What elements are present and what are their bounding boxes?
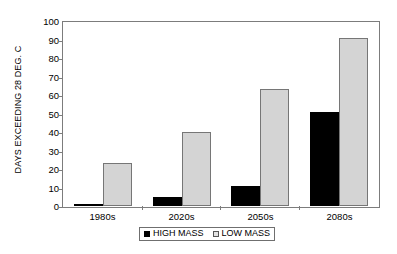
y-axis-tick-label: 20 — [29, 165, 59, 175]
bar-low-mass-2050s — [260, 89, 289, 206]
x-axis-tick-mark — [299, 206, 300, 210]
y-axis-tick-label: 0 — [29, 202, 59, 212]
y-axis-tick-label: 40 — [29, 128, 59, 138]
legend-label-low-mass: LOW MASS — [222, 229, 271, 238]
bar-high-mass-2020s — [153, 197, 182, 206]
y-axis-tick-label: 30 — [29, 147, 59, 157]
legend-item-low-mass: LOW MASS — [213, 229, 271, 238]
y-axis-tick-mark — [58, 189, 62, 190]
y-axis-tick-label: 80 — [29, 54, 59, 64]
chart-legend: HIGH MASS LOW MASS — [139, 227, 275, 241]
y-axis-tick-label: 90 — [29, 36, 59, 46]
y-axis-tick-mark — [58, 133, 62, 134]
y-axis-tick-mark — [58, 41, 62, 42]
y-axis-tick-label: 10 — [29, 184, 59, 194]
y-axis-tick-label: 60 — [29, 91, 59, 101]
y-axis-tick-mark — [58, 78, 62, 79]
legend-label-high-mass: HIGH MASS — [153, 229, 204, 238]
bar-low-mass-2080s — [339, 38, 368, 206]
y-axis-tick-mark — [58, 59, 62, 60]
y-axis-tick-mark — [58, 152, 62, 153]
y-axis-title: DAYS EXCEEDING 28 DEG. C — [9, 7, 27, 212]
y-axis-tick-mark — [58, 170, 62, 171]
x-axis-tick-labels: 1980s2020s2050s2080s — [63, 212, 379, 222]
x-axis-tick-label: 2020s — [142, 212, 221, 222]
x-axis-tick-mark — [142, 206, 143, 210]
x-axis-tick-label: 1980s — [63, 212, 142, 222]
bar-chart: DAYS EXCEEDING 28 DEG. C 1980s2020s2050s… — [0, 0, 397, 254]
x-axis-tick-mark — [220, 206, 221, 210]
bar-group — [143, 23, 222, 206]
bar-group — [300, 23, 379, 206]
bar-high-mass-2080s — [310, 112, 339, 206]
x-axis-tick-label: 2080s — [300, 212, 379, 222]
bar-high-mass-1980s — [74, 204, 103, 206]
legend-swatch-low-mass-icon — [213, 231, 219, 237]
bar-group — [64, 23, 143, 206]
x-axis-tick-label: 2050s — [221, 212, 300, 222]
legend-swatch-high-mass-icon — [144, 231, 150, 237]
plot-area — [62, 21, 380, 208]
bar-group — [221, 23, 300, 206]
bar-low-mass-2020s — [182, 132, 211, 206]
y-axis-tick-mark — [58, 207, 62, 208]
y-axis-tick-label: 100 — [29, 17, 59, 27]
y-axis-tick-label: 70 — [29, 73, 59, 83]
y-axis-tick-mark — [58, 96, 62, 97]
bar-low-mass-1980s — [103, 163, 132, 206]
bar-high-mass-2050s — [231, 186, 260, 206]
y-axis-tick-mark — [58, 115, 62, 116]
bars-container — [64, 23, 378, 206]
y-axis-tick-label: 50 — [29, 110, 59, 120]
legend-item-high-mass: HIGH MASS — [144, 229, 204, 238]
